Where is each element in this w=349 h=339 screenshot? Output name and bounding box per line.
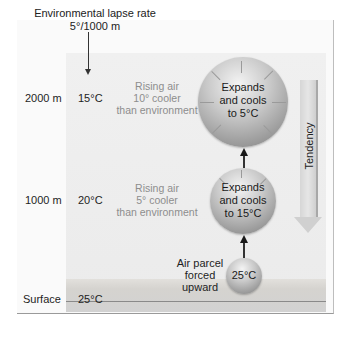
altitude-surface: Surface (23, 293, 61, 305)
comparison-2000: Rising air 10° cooler than environment (112, 80, 202, 116)
lapse-rate-caption: Environmental lapse rate 5°/1000 m (30, 7, 160, 33)
expansion-arrow-icon (264, 71, 273, 80)
altitude-2000: 2000 m (25, 92, 62, 104)
lapse-rate-value: 5°/1000 m (30, 20, 160, 33)
parcel-text-1000: Expands and cools to 15°C (210, 181, 276, 220)
parcel-text-2000: Expands and cools to 5°C (198, 81, 288, 120)
env-temp-1000: 20°C (78, 194, 103, 206)
surface-line (66, 301, 326, 302)
comparison-1000: Rising air 5° cooler than environment (112, 182, 202, 218)
lapse-rate-title: Environmental lapse rate (30, 7, 160, 20)
expansion-arrow-icon (241, 170, 242, 178)
parcel-text-surface: 25°C (226, 269, 262, 282)
tendency-arrow-icon (294, 217, 322, 233)
altitude-1000: 1000 m (25, 194, 62, 206)
up-arrow-icon (243, 152, 245, 168)
env-temp-2000: 15°C (78, 92, 103, 104)
expansion-arrow-icon (212, 125, 221, 134)
tendency-label: Tendency (303, 121, 315, 171)
expansion-arrow-icon (263, 125, 272, 134)
up-arrow-icon (243, 239, 245, 258)
down-arrow-icon (88, 32, 89, 72)
parcel-sphere-2000: Expands and cools to 5°C (198, 57, 288, 147)
expansion-arrow-icon (241, 61, 242, 73)
expansion-arrow-icon (211, 71, 220, 80)
parcel-sphere-surface: 25°C (226, 258, 262, 294)
env-temp-surface: 25°C (78, 293, 103, 305)
air-parcel-label: Air parcel forced upward (174, 257, 226, 293)
parcel-sphere-1000: Expands and cools to 15°C (210, 168, 276, 234)
